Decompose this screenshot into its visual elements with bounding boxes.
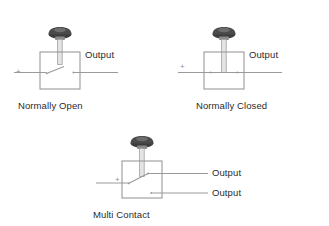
switch-symbols-diagram: + Output Normally Open + Output N	[0, 0, 329, 226]
terminal-marker-plus-3: +	[115, 176, 120, 184]
plunger-shaft	[222, 40, 227, 73]
plunger-cap-icon	[131, 136, 154, 149]
output-label-multi-lower: Output	[212, 187, 241, 198]
caption-normally-open: Normally Open	[18, 100, 83, 111]
terminal-marker-plus-1: +	[16, 68, 21, 76]
contact-pivot-dot	[210, 72, 212, 74]
output-label-normally-closed: Output	[249, 49, 278, 60]
contact-terminal-dot-lower	[150, 192, 152, 194]
output-label-multi-upper: Output	[212, 167, 241, 178]
normally-closed-svg	[178, 26, 308, 90]
plunger-cap-icon	[49, 27, 72, 40]
caption-multi-contact: Multi Contact	[93, 209, 150, 220]
contact-arm-multi	[129, 174, 149, 184]
caption-normally-closed: Normally Closed	[196, 100, 267, 111]
terminal-marker-plus-2: +	[180, 63, 185, 71]
contact-arm-open	[47, 67, 65, 74]
contact-terminal-dot	[73, 72, 75, 74]
normally-open-svg	[14, 26, 144, 90]
contact-pivot-dot	[128, 183, 130, 185]
plunger-cap-icon	[213, 27, 236, 40]
contact-pivot-dot	[46, 73, 48, 75]
contact-terminal-dot	[237, 72, 239, 74]
output-label-normally-open: Output	[85, 49, 114, 60]
switch-symbol-normally-open	[14, 26, 144, 90]
plunger-shaft	[140, 149, 145, 177]
switch-symbol-normally-closed	[178, 26, 308, 90]
contact-terminal-dot-upper	[147, 173, 149, 175]
